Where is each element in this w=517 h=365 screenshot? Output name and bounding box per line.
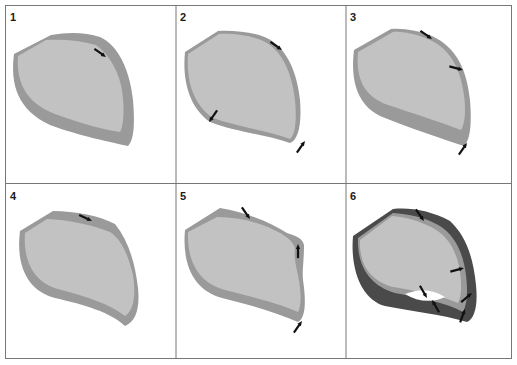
panel-label-6: 6: [350, 190, 356, 202]
panel-2: 2: [180, 11, 307, 153]
panel-label-1: 1: [10, 11, 16, 23]
diagram: 1 2 3 4 5 6: [0, 0, 517, 365]
panel-1: 1: [10, 11, 134, 146]
arrow-icon: [292, 321, 304, 333]
panel-3: 3: [350, 11, 471, 155]
panel-label-5: 5: [180, 190, 186, 202]
panel-4: 4: [10, 190, 138, 326]
arrow-icon: [295, 141, 307, 153]
panel-5: 5: [180, 190, 305, 333]
panel-label-2: 2: [180, 11, 186, 23]
panel-label-4: 4: [10, 190, 17, 202]
panel-6: 6: [350, 190, 477, 322]
panel-label-3: 3: [350, 11, 356, 23]
